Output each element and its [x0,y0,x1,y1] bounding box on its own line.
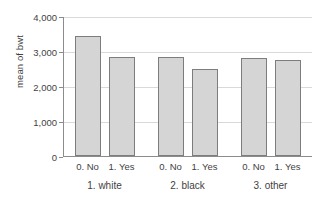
x-axis-tick-label: 1. Yes [275,161,301,172]
y-axis-tick-mark [59,52,63,53]
gridline [64,52,312,53]
bar [158,57,184,156]
y-axis-tick-label: 2,000 [33,82,57,93]
bar [75,36,101,156]
y-axis-tick-mark [59,122,63,123]
y-axis-tick-mark [59,87,63,88]
x-axis-group-label: 2. black [170,180,204,191]
x-axis-group-label: 1. white [87,180,121,191]
x-axis-line [63,156,312,157]
x-axis-tick-label: 0. No [76,161,99,172]
y-axis-tick-mark [59,17,63,18]
y-axis-tick-label: 4,000 [33,12,57,23]
bar [275,60,301,156]
y-axis-title: mean of bwt [14,17,25,107]
x-axis-tick-label: 0. No [242,161,265,172]
y-axis-tick-mark [59,157,63,158]
bar [241,58,267,156]
gridline [64,17,312,18]
x-axis-group-label: 3. other [254,180,288,191]
x-axis-tick-label: 0. No [159,161,182,172]
x-axis-tick-label: 1. Yes [109,161,135,172]
plot-area: 4,0003,0002,0001,0000 [63,17,312,157]
y-axis-tick-label: 1,000 [33,117,57,128]
bar [109,57,135,156]
bar [192,69,218,157]
y-axis-tick-label: 3,000 [33,47,57,58]
bar-chart: mean of bwt 4,0003,0002,0001,0000 0. No1… [0,0,320,213]
x-axis-tick-label: 1. Yes [192,161,218,172]
y-axis-tick-label: 0 [52,152,57,163]
